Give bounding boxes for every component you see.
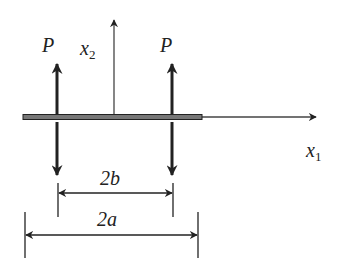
x2-axis-label: x2 [80, 38, 95, 61]
dim-2a-label: 2a [97, 209, 117, 229]
dim-2b-label: 2b [100, 168, 120, 188]
force-left-label: P [42, 35, 54, 55]
x1-axis-label: x1 [306, 140, 321, 163]
crack-bar [23, 115, 202, 120]
force-right-label: P [160, 35, 172, 55]
